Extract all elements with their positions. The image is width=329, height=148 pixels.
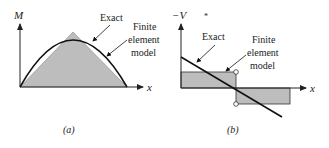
panel-a: M x Exact Finite element model (a): [13, 9, 160, 136]
fe-label-a-line3: model: [131, 47, 156, 58]
exact-label-b: Exact: [202, 31, 225, 42]
fe-pointer-b: [226, 55, 246, 71]
caption-a: (a): [63, 124, 75, 136]
jump-point-top: [234, 70, 239, 75]
fe-pointer-a: [107, 40, 127, 56]
fe-label-b-line3: model: [250, 60, 275, 71]
fe-label-b-line1: Finite: [252, 34, 276, 45]
exact-label-a: Exact: [100, 12, 123, 23]
stray-mark: *: [204, 12, 208, 21]
fe-label-b-line2: element: [247, 47, 279, 58]
exact-pointer-b: [197, 45, 215, 62]
fe-rect-negative: [236, 88, 290, 104]
x-axis-label-b: x: [309, 82, 315, 94]
figure-canvas: M x Exact Finite element model (a) −V * …: [0, 0, 329, 148]
fe-label-a-line2: element: [128, 34, 160, 45]
jump-point-bottom: [234, 102, 239, 107]
exact-pointer-a: [93, 25, 110, 41]
panel-b: −V * x Exact Finite element model (b): [172, 9, 315, 136]
fe-label-a-line1: Finite: [133, 21, 157, 32]
x-axis-label-a: x: [146, 81, 152, 93]
v-axis-label: −V: [172, 9, 187, 21]
m-axis-label: M: [13, 9, 24, 21]
caption-b: (b): [227, 124, 239, 136]
